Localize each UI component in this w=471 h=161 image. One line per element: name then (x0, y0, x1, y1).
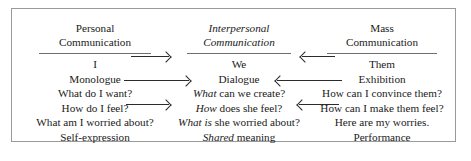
arrow-left-icon (299, 104, 339, 105)
list-item: How can I convince them? (308, 86, 456, 101)
line-regular: What do I want? (58, 87, 132, 99)
diagram-canvas: Personal Communication I Monologue What … (0, 0, 471, 161)
list-item: How does she feel? (168, 101, 310, 116)
list-item: Shared meaning (168, 130, 310, 145)
list-item: How can I make them feel? (308, 101, 456, 116)
list-item: What is she worried about? (168, 115, 310, 130)
list-item: Performance (308, 130, 456, 145)
arrow-right-icon (131, 56, 169, 57)
line-italic: What (193, 87, 217, 99)
list-item: What do I want? (20, 86, 170, 101)
column-body-mass: Them Exhibition How can I convince them?… (308, 57, 456, 145)
line-italic: Shared (203, 131, 234, 143)
line-regular: How do I feel? (62, 102, 129, 114)
list-item: Self-expression (20, 130, 170, 145)
line-regular: Dialogue (218, 73, 259, 85)
header-line-1: Interpersonal (168, 22, 310, 36)
line-regular: Self-expression (60, 131, 130, 143)
line-regular: Monologue (69, 73, 121, 85)
list-item: Here are my worries. (308, 115, 456, 130)
header-line-1: Mass (308, 22, 456, 36)
line-regular: We (232, 58, 247, 70)
line-italic: What is (178, 116, 212, 128)
line-regular: does she feel? (217, 102, 283, 114)
header-line-2: Communication (20, 36, 170, 50)
list-item: Exhibition (308, 72, 456, 87)
header-line-2: Communication (308, 36, 456, 50)
line-italic: How (196, 102, 217, 114)
list-item: What can we create? (168, 86, 310, 101)
column-header-mass: Mass Communication (308, 22, 456, 49)
line-regular: Exhibition (358, 73, 405, 85)
list-item: How do I feel? (20, 101, 170, 116)
header-line-1: Personal (20, 22, 170, 36)
list-item: Them (308, 57, 456, 72)
header-line-2: Communication (168, 36, 310, 50)
line-regular: Here are my worries. (335, 116, 429, 128)
arrow-right-icon (124, 80, 189, 81)
list-item: Monologue (20, 72, 170, 87)
list-item: What am I worried about? (20, 115, 170, 130)
column-header-personal: Personal Communication (20, 22, 170, 49)
column-header-interpersonal: Interpersonal Communication (168, 22, 310, 49)
column-divider-mass (327, 53, 437, 54)
column-body-interpersonal: We Dialogue What can we create? How does… (168, 57, 310, 145)
line-regular: meaning (234, 131, 275, 143)
column-personal-communication: Personal Communication I Monologue What … (20, 22, 170, 145)
diagram-frame: Personal Communication I Monologue What … (11, 8, 456, 142)
column-body-personal: I Monologue What do I want? How do I fee… (20, 57, 170, 145)
line-regular: can we create? (217, 87, 286, 99)
arrow-right-icon (126, 104, 169, 105)
arrow-left-icon (277, 80, 342, 81)
list-item: We (168, 57, 310, 72)
column-divider-interpersonal (187, 53, 291, 54)
arrow-left-icon (302, 56, 335, 57)
line-regular: How can I convince them? (322, 87, 442, 99)
line-regular: I (93, 58, 97, 70)
list-item: I (20, 57, 170, 72)
line-regular: Them (369, 58, 395, 70)
line-regular: she worried about? (212, 116, 300, 128)
column-divider-personal (39, 53, 151, 54)
line-regular: What am I worried about? (36, 116, 153, 128)
line-regular: Performance (353, 131, 410, 143)
column-mass-communication: Mass Communication Them Exhibition How c… (308, 22, 456, 145)
